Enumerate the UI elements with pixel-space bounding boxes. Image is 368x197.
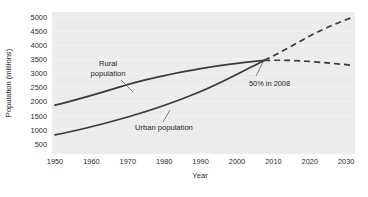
x-tick-1960: 1960 — [83, 157, 99, 166]
x-tick-2000: 2000 — [229, 157, 245, 166]
plot-area-background — [52, 12, 355, 154]
y-tick-1000: 1000 — [31, 126, 47, 135]
y-tick-500: 500 — [35, 140, 47, 149]
y-axis-tick-labels: 5000 4500 4000 3500 3000 2500 2000 1500 … — [31, 13, 47, 149]
x-tick-2020: 2020 — [302, 157, 318, 166]
x-tick-1970: 1970 — [120, 157, 136, 166]
rural-population-label-line1: Rural — [99, 59, 117, 68]
y-axis-title: Population (millions) — [4, 48, 13, 117]
y-tick-3500: 3500 — [31, 55, 47, 64]
y-tick-3000: 3000 — [31, 69, 47, 78]
population-chart: 5000 4500 4000 3500 3000 2500 2000 1500 … — [0, 0, 368, 197]
y-tick-1500: 1500 — [31, 112, 47, 121]
y-tick-5000: 5000 — [31, 13, 47, 22]
x-axis-title: Year — [192, 171, 208, 180]
rural-population-label-line2: population — [90, 69, 125, 78]
urban-population-label: Urban population — [135, 123, 193, 132]
x-tick-2010: 2010 — [265, 157, 281, 166]
y-tick-2500: 2500 — [31, 83, 47, 92]
x-tick-1990: 1990 — [192, 157, 208, 166]
crossover-annotation-label: 50% in 2008 — [249, 79, 290, 88]
x-axis-tick-labels: 1950 1960 1970 1980 1990 2000 2010 2020 … — [47, 157, 355, 166]
y-tick-4500: 4500 — [31, 27, 47, 36]
x-tick-2030: 2030 — [338, 157, 354, 166]
chart-svg: 5000 4500 4000 3500 3000 2500 2000 1500 … — [0, 0, 368, 197]
y-tick-2000: 2000 — [31, 97, 47, 106]
x-tick-1950: 1950 — [47, 157, 63, 166]
x-tick-1980: 1980 — [156, 157, 172, 166]
y-tick-4000: 4000 — [31, 41, 47, 50]
